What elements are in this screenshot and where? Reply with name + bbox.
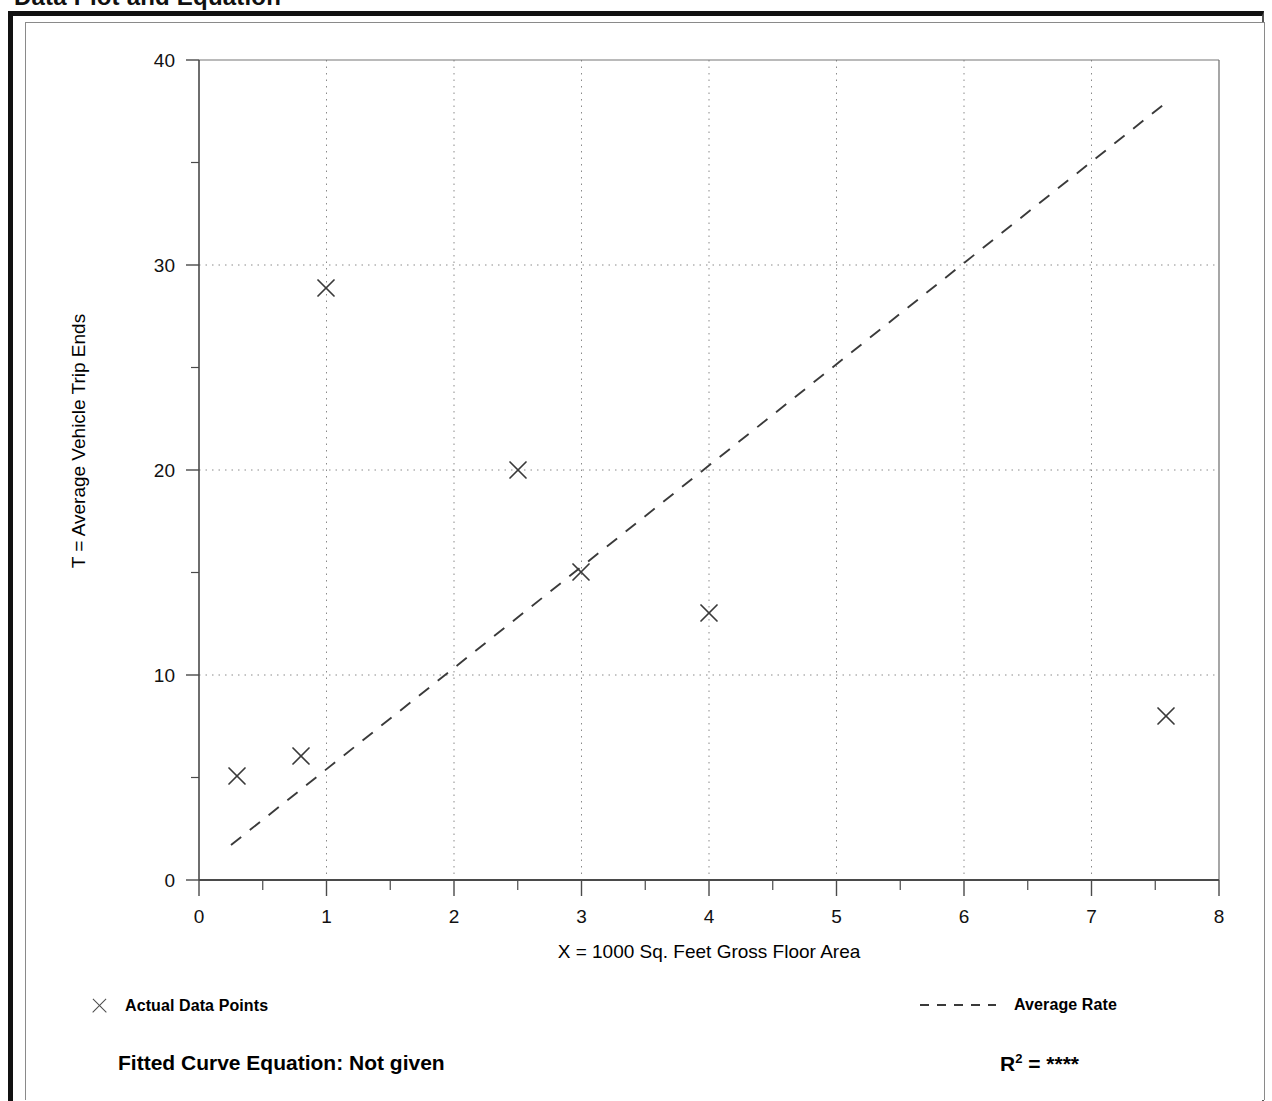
x-marker-icon [90, 996, 109, 1015]
r-squared-result: = **** [1028, 1052, 1079, 1075]
legend-row-secondary: Fitted Curve Equation: Not given R2 = **… [0, 1051, 1272, 1077]
r-squared-value: R2 = **** [1000, 1051, 1079, 1076]
y-axis-title: T = Average Vehicle Trip Ends [68, 276, 90, 606]
legend-item-average-rate: Average Rate [920, 996, 1117, 1014]
dashed-line-icon [920, 1004, 996, 1006]
figure-outer-frame [8, 11, 1264, 1101]
fitted-curve-equation: Fitted Curve Equation: Not given [118, 1051, 445, 1075]
figure-inner-border [25, 22, 1265, 1100]
r-squared-exponent: 2 [1015, 1051, 1022, 1066]
page-title: Data Plot and Equation [14, 0, 281, 11]
legend-label-actual-data-points: Actual Data Points [125, 997, 268, 1015]
r-squared-prefix: R [1000, 1052, 1015, 1075]
legend-item-actual-data-points: Actual Data Points [90, 996, 268, 1015]
legend-label-average-rate: Average Rate [1014, 996, 1117, 1014]
x-axis-title: X = 1000 Sq. Feet Gross Floor Area [199, 941, 1219, 963]
legend-row-primary: Actual Data Points Average Rate [0, 996, 1272, 1022]
